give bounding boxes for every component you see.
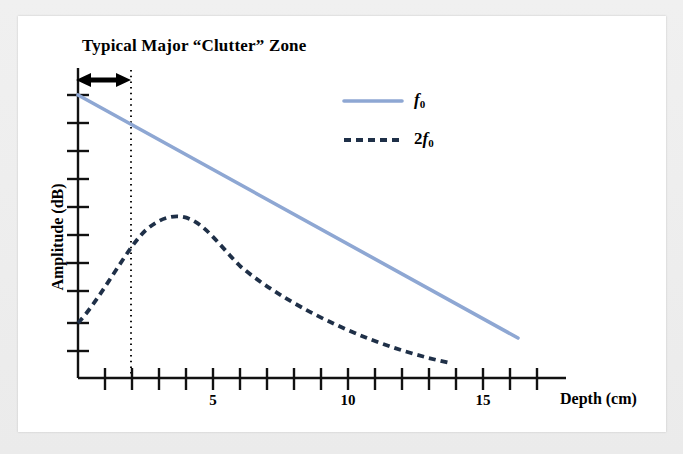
x-axis-title: Depth (cm) <box>560 390 637 408</box>
legend-label-f0: f0 <box>414 90 425 110</box>
x-tick-label-5: 5 <box>203 392 223 409</box>
y-axis-title: Amplitude (dB) <box>49 157 67 317</box>
legend-label-2f0: 2f0 <box>414 129 434 149</box>
chart-canvas <box>0 0 683 454</box>
chart-title: Typical Major “Clutter” Zone <box>82 36 307 56</box>
series-f0-line <box>78 95 518 338</box>
clutter-zone-arrow-icon <box>76 73 131 87</box>
axis-lines <box>78 68 566 378</box>
figure-container: Typical Major “Clutter” Zone Depth (cm) … <box>0 0 683 454</box>
x-tick-label-15: 15 <box>469 392 497 409</box>
x-tick-label-10: 10 <box>334 392 362 409</box>
legend <box>344 101 402 140</box>
series-2f0-line <box>78 216 450 363</box>
